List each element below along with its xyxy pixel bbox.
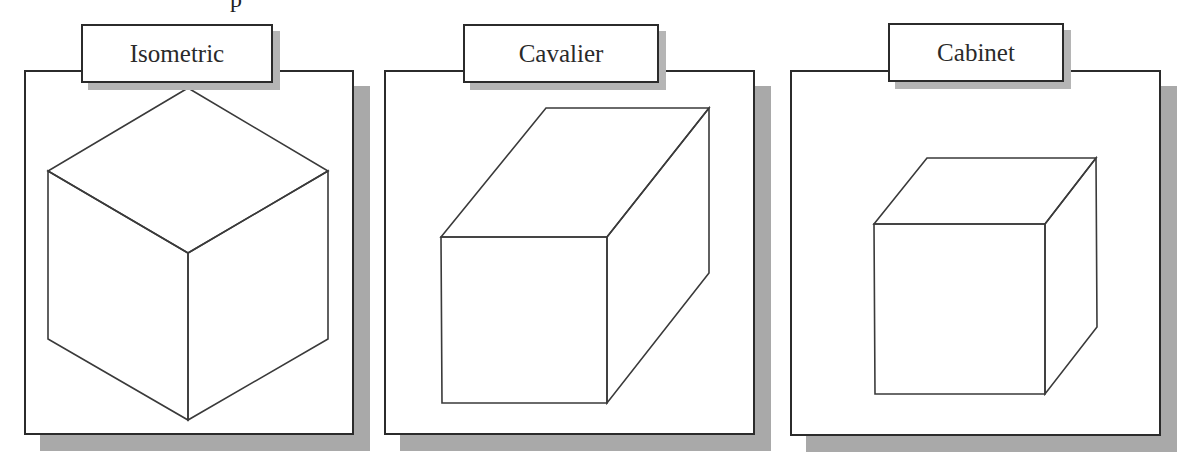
cabinet-label: Cabinet <box>888 23 1064 82</box>
cavalier-panel <box>384 70 755 435</box>
isometric-label: Isometric <box>81 24 273 83</box>
cavalier-label: Cavalier <box>463 24 659 83</box>
cabinet-panel <box>790 70 1161 436</box>
isometric-panel <box>24 70 354 435</box>
cut-off-caption: p <box>230 0 242 13</box>
